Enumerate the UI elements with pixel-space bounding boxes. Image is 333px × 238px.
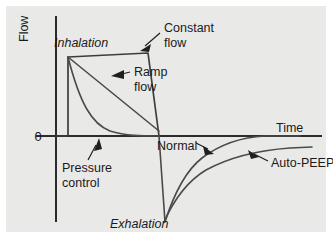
- constant-flow-label-line2: flow: [164, 36, 187, 50]
- waveform-plot: Flow 0 Time Inhalation Exhalation Consta…: [0, 0, 333, 238]
- pressure-control-arrowhead: [94, 138, 102, 151]
- normal-label: Normal: [157, 139, 197, 153]
- auto-peep-label: Auto-PEEP: [271, 156, 333, 170]
- constant-flow-leader: [145, 33, 160, 46]
- pressure-control-label-line1: Pressure: [62, 161, 112, 175]
- ramp-flow-label-line1: Ramp: [134, 65, 167, 79]
- pressure-control-label-line2: control: [62, 176, 100, 190]
- auto-peep-arrowhead: [248, 150, 259, 159]
- constant-flow-label-line1: Constant: [164, 21, 215, 35]
- exhalation-label: Exhalation: [110, 217, 168, 231]
- ramp-flow-label-line2: flow: [134, 80, 157, 94]
- flow-waveform-figure: Flow 0 Time Inhalation Exhalation Consta…: [0, 0, 333, 238]
- x-axis-label: Time: [276, 121, 303, 135]
- zero-tick-label: 0: [34, 129, 41, 144]
- inhalation-label: Inhalation: [54, 36, 108, 50]
- ramp-flow-arrowhead: [111, 70, 124, 79]
- normal-leader: [196, 143, 208, 149]
- y-axis-label: Flow: [17, 15, 31, 42]
- pressure-control-leader: [88, 145, 96, 160]
